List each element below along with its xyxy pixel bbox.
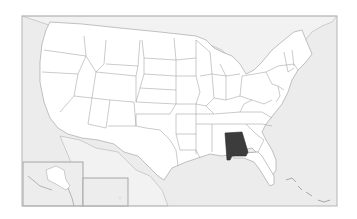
hawaii-island [119, 197, 121, 199]
us-locator-map [0, 0, 357, 219]
hawaii-inset [83, 178, 128, 206]
